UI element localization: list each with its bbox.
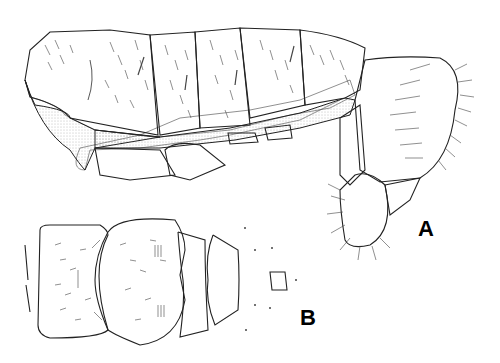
- figure-drawing: [0, 0, 500, 363]
- panel-label-b: B: [300, 305, 316, 331]
- panel-b-sternites: [25, 219, 297, 345]
- panel-label-a: A: [418, 216, 434, 242]
